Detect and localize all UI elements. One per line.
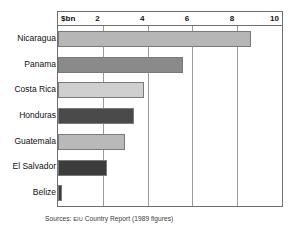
x-tick-label-8: 8 — [230, 13, 238, 24]
caption-source-abbr: eiu — [73, 216, 82, 222]
category-label-panama: Panama — [24, 59, 56, 69]
caption-suffix: Country Report (1989 figures) — [85, 215, 174, 222]
bar-guatemala — [58, 134, 125, 150]
bar-honduras — [58, 108, 134, 124]
category-label-honduras: Honduras — [19, 110, 56, 120]
bar-panama — [58, 57, 183, 73]
category-label-belize: Belize — [33, 187, 56, 197]
category-label-costa-rica: Costa Rica — [14, 84, 56, 94]
bar-costa-rica — [58, 82, 144, 98]
bar-row — [58, 155, 282, 181]
category-label-nicaragua: Nicaragua — [17, 33, 56, 43]
caption-prefix: Sources: — [45, 215, 71, 222]
x-tick-label-6: 6 — [185, 13, 193, 24]
chart-frame: $bn 246810 — [57, 11, 283, 207]
x-tick-label-4: 4 — [140, 13, 148, 24]
bar-row — [58, 77, 282, 103]
x-axis-unit-label: $bn — [61, 13, 76, 24]
category-label-el-salvador: El Salvador — [13, 161, 56, 171]
category-label-guatemala: Guatemala — [14, 136, 56, 146]
bar-row — [58, 52, 282, 78]
chart-caption: Sources: eiu Country Report (1989 figure… — [45, 214, 173, 224]
bar-row — [58, 180, 282, 206]
chart-page: $bn 246810 NicaraguaPanamaCosta RicaHond… — [0, 0, 300, 240]
bar-nicaragua — [58, 31, 251, 47]
bar-row — [58, 129, 282, 155]
bar-el-salvador — [58, 160, 107, 176]
x-axis-header: $bn 246810 — [58, 12, 282, 26]
bar-row — [58, 26, 282, 52]
bar-row — [58, 103, 282, 129]
x-tick-label-2: 2 — [95, 13, 103, 24]
plot-area — [58, 26, 282, 206]
bar-belize — [58, 185, 62, 201]
x-tick-label-10: 10 — [270, 13, 282, 24]
